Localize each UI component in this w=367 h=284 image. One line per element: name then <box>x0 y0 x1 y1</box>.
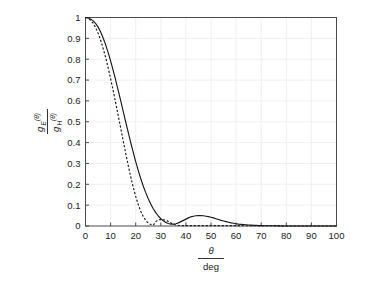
y-axis-label-numerator-base: g <box>34 126 45 132</box>
x-tick-label: 90 <box>306 230 317 241</box>
y-axis-label-denominator-subscript: H <box>56 121 63 126</box>
y-tick-label: 0.2 <box>67 179 80 190</box>
radiation-pattern-chart: 0102030405060708090100 00.10.20.30.40.50… <box>0 0 367 284</box>
x-tick-label: 30 <box>156 230 167 241</box>
x-tick-label: 100 <box>329 230 345 241</box>
x-tick-label: 10 <box>105 230 116 241</box>
x-tick-label: 70 <box>256 230 267 241</box>
x-tick-label: 0 <box>83 230 88 241</box>
chart-figure: 0102030405060708090100 00.10.20.30.40.50… <box>0 0 367 284</box>
y-axis-label-numerator-subscript: E <box>40 121 47 126</box>
x-tick-label: 60 <box>231 230 242 241</box>
y-tick-label: 1 <box>75 12 80 23</box>
y-tick-label: 0.5 <box>67 116 80 127</box>
y-tick-label: 0.9 <box>67 33 80 44</box>
y-axis-label-numerator-superscript: (θ) <box>33 113 41 121</box>
x-tick-label: 50 <box>206 230 217 241</box>
x-tick-label: 40 <box>181 230 192 241</box>
chart-background <box>0 0 367 284</box>
y-tick-label: 0.3 <box>67 158 80 169</box>
y-tick-label: 0.1 <box>67 200 80 211</box>
y-tick-label: 0 <box>75 220 80 231</box>
y-axis-label-denominator-superscript: (θ) <box>49 113 57 121</box>
y-tick-label: 0.7 <box>67 74 80 85</box>
y-tick-label: 0.8 <box>67 54 80 65</box>
y-axis-label-denominator-base: g <box>50 126 61 132</box>
x-tick-label: 80 <box>281 230 292 241</box>
x-axis-label-numerator: θ <box>208 245 214 256</box>
x-tick-label: 20 <box>130 230 141 241</box>
x-axis-label-denominator: deg <box>203 261 219 272</box>
y-tick-label: 0.4 <box>67 137 80 148</box>
y-tick-label: 0.6 <box>67 95 80 106</box>
